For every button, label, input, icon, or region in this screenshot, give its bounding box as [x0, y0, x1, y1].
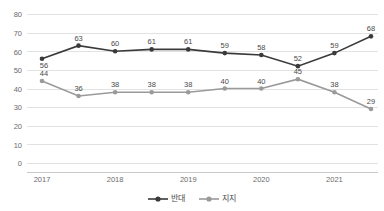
x-axis-tick-label: 2019 [180, 175, 197, 184]
data-point-marker [76, 94, 81, 99]
data-point-marker [369, 107, 374, 112]
data-point-marker [259, 86, 264, 91]
data-point-label: 58 [257, 43, 265, 52]
data-point-label: 38 [147, 80, 155, 89]
legend-label: 반대 [171, 194, 185, 204]
data-point-label: 38 [184, 80, 192, 89]
y-axis-tick-labels: 01020304050607080 [14, 10, 22, 168]
data-point-label: 59 [221, 41, 229, 50]
y-axis-tick-label: 80 [14, 10, 22, 19]
data-point-marker [222, 51, 227, 56]
data-point-marker [149, 47, 154, 52]
data-point-label: 60 [111, 39, 119, 48]
y-axis-tick-label: 60 [14, 48, 22, 57]
data-point-marker [76, 43, 81, 48]
data-point-label: 52 [294, 54, 302, 63]
y-axis-tick-label: 10 [14, 141, 22, 150]
y-axis-tick-label: 70 [14, 29, 22, 38]
data-point-marker [296, 77, 301, 82]
data-point-label: 68 [367, 24, 375, 33]
data-point-label: 45 [294, 67, 302, 76]
data-point-marker [259, 53, 264, 58]
legend-marker-icon [199, 190, 219, 208]
series-lines-group [42, 36, 371, 109]
data-point-marker [113, 90, 118, 95]
chart-screenshot: 01020304050607080 20172018201920202021 5… [0, 0, 384, 211]
data-point-marker [332, 51, 337, 56]
data-point-marker [113, 49, 118, 54]
data-point-marker [332, 90, 337, 95]
y-axis-tick-label: 20 [14, 122, 22, 131]
y-axis-tick-label: 30 [14, 103, 22, 112]
legend-marker-icon [148, 190, 168, 208]
data-point-labels-group: 5663606161595852596844363838384040453829 [40, 24, 375, 106]
y-axis-tick-label: 50 [14, 66, 22, 75]
legend-item-반대[interactable]: 반대 [148, 190, 185, 208]
series-markers-group [40, 34, 374, 111]
data-point-label: 40 [221, 77, 229, 86]
x-axis-tick-label: 2020 [253, 175, 270, 184]
data-point-label: 38 [330, 80, 338, 89]
data-point-marker [222, 86, 227, 91]
series-line-지지 [42, 79, 371, 109]
legend-label: 지지 [222, 194, 236, 204]
chart-legend: 반대지지 [0, 190, 384, 208]
data-point-marker [369, 34, 374, 39]
x-axis-tick-label: 2021 [326, 175, 343, 184]
y-axis-tick-label: 40 [14, 85, 22, 94]
data-point-label: 38 [111, 80, 119, 89]
y-axis-tick-label: 0 [18, 159, 22, 168]
data-point-label: 61 [184, 37, 192, 46]
data-point-label: 61 [147, 37, 155, 46]
data-point-label: 63 [74, 34, 82, 43]
legend-item-지지[interactable]: 지지 [199, 190, 236, 208]
line-chart-plot: 01020304050607080 20172018201920202021 5… [0, 0, 384, 190]
data-point-label: 44 [40, 69, 48, 78]
x-axis-tick-labels: 20172018201920202021 [34, 175, 343, 184]
data-point-label: 59 [330, 41, 338, 50]
data-point-label: 29 [367, 97, 375, 106]
data-point-label: 40 [257, 77, 265, 86]
x-axis-tick-label: 2017 [34, 175, 51, 184]
data-point-marker [40, 79, 45, 84]
x-axis-tick-label: 2018 [107, 175, 124, 184]
data-point-marker [186, 90, 191, 95]
data-point-marker [186, 47, 191, 52]
data-point-marker [149, 90, 154, 95]
data-point-label: 36 [74, 84, 82, 93]
